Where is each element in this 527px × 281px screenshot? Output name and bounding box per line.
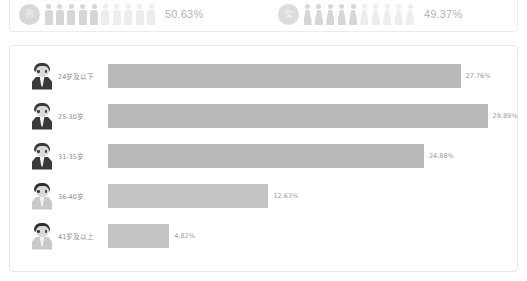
person-icon — [55, 4, 64, 25]
male-percent-label: 50.63% — [165, 8, 204, 20]
person-icon — [67, 4, 76, 25]
age-bar-row: 25-30岁29.89% — [10, 96, 517, 136]
person-avatar-icon — [31, 223, 53, 250]
person-icon — [78, 4, 87, 25]
age-group-label: 31-35岁 — [58, 151, 84, 161]
person-icon — [124, 4, 133, 25]
bar-track: 12.63% — [108, 184, 513, 208]
age-group-label: 25-30岁 — [58, 111, 84, 121]
person-icon — [303, 4, 312, 25]
person-icon — [326, 4, 335, 25]
male-people-icons — [44, 3, 158, 25]
age-bar-list: 24岁及以下27.76%25-30岁29.89%31-35岁24.88%36-4… — [10, 56, 517, 256]
age-bar — [108, 184, 268, 208]
person-icon — [314, 4, 323, 25]
age-group-label: 24岁及以下 — [58, 71, 94, 81]
person-icon — [349, 4, 358, 25]
age-bar-value-label: 12.63% — [273, 192, 298, 200]
age-distribution-panel: 24岁及以下27.76%25-30岁29.89%31-35岁24.88%36-4… — [9, 45, 518, 272]
age-bar — [108, 64, 461, 88]
person-avatar-icon — [31, 183, 53, 210]
bar-track: 29.89% — [108, 104, 513, 128]
female-percent-label: 49.37% — [424, 8, 463, 20]
person-icon — [112, 4, 121, 25]
age-bar-row: 36-40岁12.63% — [10, 176, 517, 216]
person-icon — [394, 4, 403, 25]
age-bar-row: 41岁及以上4.82% — [10, 216, 517, 256]
bar-track: 4.82% — [108, 224, 513, 248]
bar-track: 24.88% — [108, 144, 513, 168]
age-bar — [108, 104, 488, 128]
male-badge-icon: 男 — [19, 4, 40, 25]
age-bar — [108, 144, 424, 168]
person-icon — [406, 4, 415, 25]
person-icon — [147, 4, 156, 25]
age-bar-value-label: 27.76% — [466, 72, 491, 80]
age-bar-value-label: 29.89% — [493, 112, 518, 120]
person-avatar-icon — [31, 143, 53, 170]
female-people-icons — [303, 3, 417, 25]
gender-female-group: 女 49.37% — [278, 3, 462, 25]
person-avatar-icon — [31, 63, 53, 90]
age-bar — [108, 224, 169, 248]
age-group-label: 41岁及以上 — [58, 231, 94, 241]
age-bar-row: 24岁及以下27.76% — [10, 56, 517, 96]
person-avatar-icon — [31, 103, 53, 130]
person-icon — [90, 4, 99, 25]
age-bar-row: 31-35岁24.88% — [10, 136, 517, 176]
bar-track: 27.76% — [108, 64, 513, 88]
person-icon — [44, 4, 53, 25]
person-icon — [371, 4, 380, 25]
age-bar-value-label: 24.88% — [429, 152, 454, 160]
age-bar-value-label: 4.82% — [174, 232, 195, 240]
female-badge-icon: 女 — [278, 4, 299, 25]
gender-male-group: 男 50.63% — [19, 3, 203, 25]
age-group-label: 36-40岁 — [58, 191, 84, 201]
gender-summary-panel: 男 50.63% 女 49.37% — [9, 0, 518, 32]
person-icon — [383, 4, 392, 25]
person-icon — [135, 4, 144, 25]
person-icon — [337, 4, 346, 25]
person-icon — [360, 4, 369, 25]
person-icon — [101, 4, 110, 25]
